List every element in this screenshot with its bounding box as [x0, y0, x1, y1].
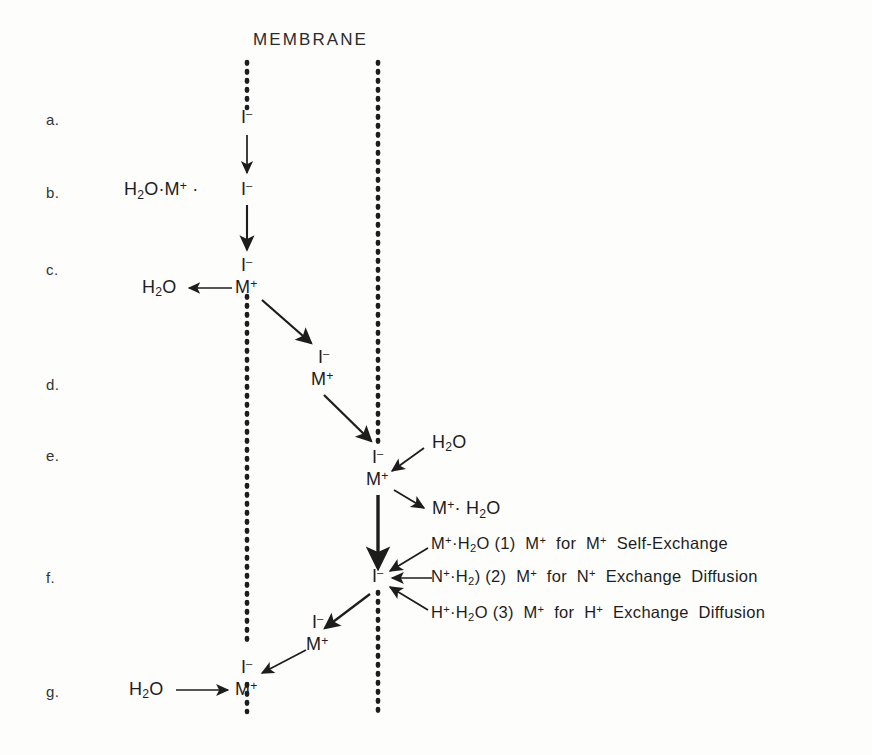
diagram-vector-layer — [0, 0, 872, 755]
arrow-c-to-d — [262, 300, 311, 343]
row-label-g: g. — [46, 684, 59, 699]
row-b-iodide: I– — [241, 180, 252, 198]
row-g-water: H2O — [129, 680, 163, 701]
row-g-iodide: I– — [241, 658, 252, 676]
arrow-f-mechanism-3 — [390, 587, 428, 610]
row-label-f: f. — [46, 570, 55, 585]
row-e-metal-ion: M+ — [366, 470, 389, 488]
row-g-metal-ion: M+ — [235, 680, 258, 698]
row-label-a: a. — [46, 112, 59, 127]
arrow-f-to-g-lower — [262, 650, 306, 673]
row-d-iodide: I– — [318, 348, 329, 366]
arrow-f-to-g-upper — [325, 594, 370, 628]
row-c-water: H2O — [142, 278, 176, 299]
mechanism-3-description: M+ for H+ Exchange Diffusion — [519, 603, 766, 621]
row-d-metal-ion: M+ — [311, 370, 334, 388]
row-f-iodide: I– — [372, 567, 383, 585]
mechanism-3-number: (3) — [493, 603, 514, 621]
mechanism-1-description: M+ for M+ Self-Exchange — [520, 534, 727, 552]
mechanism-1-number: (1) — [495, 534, 516, 552]
row-e-outgoing-metal-hydrate: M+· H2O — [432, 499, 500, 520]
mechanism-1-reactant: M+·H2O — [431, 534, 490, 552]
row-f-left-iodide: I– — [312, 613, 323, 631]
page-title: MEMBRANE — [253, 31, 368, 48]
row-c-iodide: I– — [241, 256, 252, 274]
mechanism-row-3: H+·H2O (3) M+ for H+ Exchange Diffusion — [431, 604, 765, 623]
row-label-c: c. — [46, 262, 58, 277]
row-c-metal-ion: M+ — [235, 278, 258, 296]
row-a-iodide: I– — [241, 108, 252, 126]
mechanism-2-number: (2) — [485, 567, 506, 585]
membrane-transport-diagram: MEMBRANE a. b. c. d. e. f. g. I– H2O·M+ … — [0, 0, 872, 755]
row-b-hydrated-metal: H2O·M+ · — [124, 180, 199, 201]
row-label-d: d. — [46, 377, 59, 392]
arrow-e-hydrate-out — [394, 490, 424, 508]
mechanism-3-reactant: H+·H2O — [431, 603, 488, 621]
row-label-e: e. — [46, 448, 59, 463]
mechanism-2-reactant: N+·H2) — [431, 567, 480, 585]
row-f-left-metal-ion: M+ — [306, 635, 329, 653]
row-label-b: b. — [46, 185, 59, 200]
arrow-e-water-in — [392, 448, 424, 471]
row-e-incoming-water: H2O — [432, 433, 466, 454]
mechanism-2-description: M+ for N+ Exchange Diffusion — [511, 567, 758, 585]
arrow-d-to-e — [324, 395, 371, 441]
mechanism-row-2: N+·H2) (2) M+ for N+ Exchange Diffusion — [431, 568, 758, 587]
row-e-iodide: I– — [372, 448, 383, 466]
arrow-f-mechanism-1 — [390, 548, 428, 571]
mechanism-row-1: M+·H2O (1) M+ for M+ Self-Exchange — [431, 535, 728, 554]
